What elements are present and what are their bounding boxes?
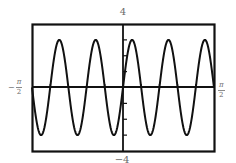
x-min-fraction: π 2 [16, 79, 23, 96]
x-max-denominator: 2 [219, 91, 223, 99]
x-min-label: − π 2 [8, 79, 22, 96]
x-min-denominator: 2 [17, 88, 21, 96]
x-min-numerator: π [16, 79, 23, 88]
function-plot [0, 0, 236, 163]
x-min-sign: − [8, 84, 15, 92]
x-max-numerator: π [218, 82, 225, 91]
y-min-label: −4 [112, 155, 132, 163]
y-max-label: 4 [115, 7, 131, 17]
x-max-fraction: π 2 [218, 82, 225, 99]
x-max-label: π 2 [218, 79, 225, 99]
